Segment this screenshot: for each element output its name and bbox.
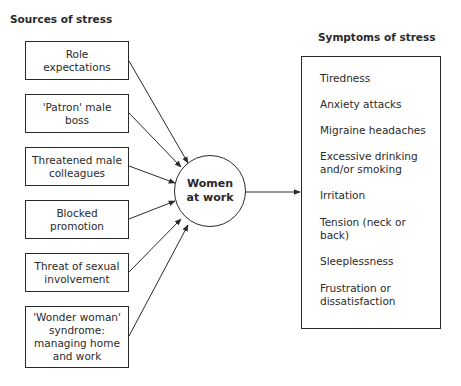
symptoms-box: Tiredness Anxiety attacks Migraine heada… bbox=[301, 56, 441, 329]
source-box-patron-boss: 'Patron' maleboss bbox=[25, 94, 129, 133]
symptom-item: Tension (neck orback) bbox=[320, 216, 438, 242]
source-box-sexual-involvement: Threat of sexualinvolvement bbox=[25, 253, 129, 292]
symptom-item: Tiredness bbox=[320, 72, 438, 85]
arrow-role-expectations bbox=[129, 61, 188, 163]
symptom-item: Excessive drinkingand/or smoking bbox=[320, 150, 438, 176]
arrow-threatened-colleagues bbox=[129, 166, 175, 183]
symptom-item: Frustration ordissatisfaction bbox=[320, 282, 438, 308]
arrow-blocked-promotion bbox=[129, 201, 175, 219]
women-at-work-node: Women at work bbox=[174, 155, 246, 227]
arrow-patron-boss bbox=[129, 113, 181, 167]
arrow-sexual-involvement bbox=[129, 219, 181, 272]
source-box-threatened-colleagues: Threatened malecolleagues bbox=[25, 147, 129, 186]
source-box-wonder-woman: 'Wonder woman' syndrome: managing home a… bbox=[25, 306, 129, 368]
symptom-item: Migraine headaches bbox=[320, 124, 438, 137]
hub-label-line2: at work bbox=[187, 191, 234, 205]
source-box-blocked-promotion: Blockedpromotion bbox=[25, 200, 129, 239]
symptom-item: Sleeplessness bbox=[320, 255, 438, 268]
source-box-role-expectations: Roleexpectations bbox=[25, 41, 129, 80]
hub-label-line1: Women bbox=[187, 177, 234, 191]
symptom-item: Anxiety attacks bbox=[320, 98, 438, 111]
symptom-item: Irritation bbox=[320, 189, 438, 202]
